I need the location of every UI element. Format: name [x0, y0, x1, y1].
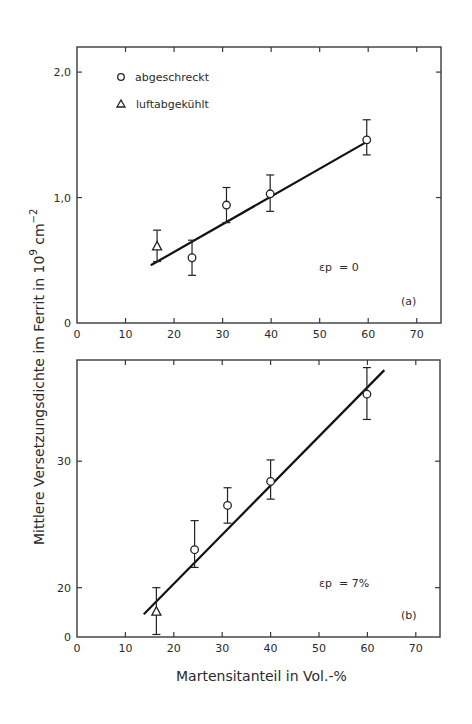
y-axis-label: Mittlere Versetzungsdichte im Ferrit in … — [28, 209, 47, 545]
figure: 010203040506070 01,02,0 abgeschreckt luf… — [0, 0, 472, 724]
legend-triangle-icon — [117, 100, 125, 107]
y-tick-label: 0 — [64, 631, 71, 644]
panel-b-data-point — [363, 368, 371, 420]
panel-b-y-tick-labels: 02030 — [57, 455, 71, 644]
x-tick-label: 60 — [361, 328, 375, 341]
x-tick-label: 50 — [312, 642, 326, 655]
panel-b-x-tick-labels: 010203040506070 — [74, 642, 423, 655]
triangle-marker-icon — [152, 607, 161, 616]
circle-marker-icon — [191, 546, 199, 554]
panel-b-data-point — [267, 460, 275, 499]
x-tick-label: 40 — [264, 642, 278, 655]
x-tick-label: 20 — [167, 642, 181, 655]
x-tick-label: 70 — [409, 642, 423, 655]
panel-b-plot: 010203040506070 02030 εp = 7% (b) — [57, 360, 440, 655]
x-tick-label: 0 — [74, 642, 81, 655]
circle-marker-icon — [224, 502, 232, 510]
x-tick-label: 40 — [264, 328, 278, 341]
legend-label-abgeschreckt: abgeschreckt — [135, 71, 210, 84]
x-tick-label: 70 — [410, 328, 424, 341]
panel-a-data-point — [266, 175, 274, 211]
triangle-marker-icon — [153, 241, 162, 250]
panel-a-y-tick-labels: 01,02,0 — [54, 66, 72, 330]
x-tick-label: 50 — [313, 328, 327, 341]
panel-b-data-point — [224, 488, 232, 523]
panel-a-data-point — [188, 240, 196, 275]
panel-a-ticks — [77, 47, 441, 323]
circle-marker-icon — [266, 190, 274, 198]
panel-b-annotation: εp = 7% — [319, 577, 369, 590]
panel-a-fit-line — [151, 142, 366, 265]
x-axis-label: Martensitanteil in Vol.-% — [176, 668, 347, 684]
legend-circle-icon — [118, 74, 125, 81]
x-tick-label: 10 — [118, 642, 132, 655]
circle-marker-icon — [223, 201, 231, 209]
panel-b-data-point — [152, 588, 161, 635]
y-tick-label: 20 — [57, 582, 71, 595]
panel-b-label: (b) — [401, 609, 417, 622]
circle-marker-icon — [363, 390, 371, 398]
y-axis-label-unit: cm — [31, 223, 47, 249]
circle-marker-icon — [363, 136, 371, 144]
legend-label-luftabgekuehlt: luftabgekühlt — [136, 98, 210, 111]
circle-marker-icon — [188, 254, 196, 262]
panel-a-x-tick-labels: 010203040506070 — [74, 328, 424, 341]
y-axis-label-unit-exp: −2 — [28, 209, 39, 224]
panel-a-frame — [77, 47, 441, 323]
x-tick-label: 20 — [167, 328, 181, 341]
y-tick-label: 2,0 — [54, 66, 72, 79]
x-tick-label: 60 — [360, 642, 374, 655]
x-tick-label: 30 — [216, 328, 230, 341]
panel-a-annotation: εp = 0 — [319, 261, 359, 274]
y-tick-label: 1,0 — [54, 192, 72, 205]
panel-b-data — [144, 368, 385, 635]
panel-a-label: (a) — [401, 295, 416, 308]
x-tick-label: 30 — [215, 642, 229, 655]
panel-a-data-point — [222, 188, 230, 223]
y-axis-label-text: Mittlere Versetzungsdichte im Ferrit in … — [31, 256, 47, 545]
panel-a-data-point — [363, 120, 371, 155]
panel-a-plot: 010203040506070 01,02,0 abgeschreckt luf… — [54, 47, 442, 341]
panel-a-data-point — [153, 230, 162, 261]
circle-marker-icon — [267, 478, 275, 486]
y-tick-label: 30 — [57, 455, 71, 468]
panel-a-data — [151, 120, 371, 276]
x-tick-label: 0 — [74, 328, 81, 341]
x-tick-label: 10 — [119, 328, 133, 341]
y-tick-label: 0 — [64, 317, 71, 330]
legend: abgeschreckt luftabgekühlt — [117, 71, 210, 111]
